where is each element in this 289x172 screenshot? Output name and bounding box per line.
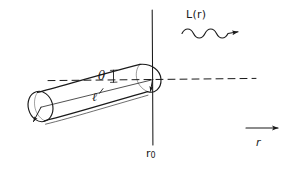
length-label: ℓ <box>92 91 97 103</box>
cylinder-right-end-cap <box>140 64 161 92</box>
r0-label-subscript: 0 <box>151 151 156 160</box>
r0-label: r0 <box>146 148 156 160</box>
angle-label: θ <box>98 70 105 82</box>
cylinder-right-cap-back-edge <box>136 64 147 91</box>
radiation-wave-arrow <box>182 29 238 38</box>
left-cap-radius-arrow <box>34 107 42 121</box>
radius-axis-label: r <box>256 137 261 148</box>
diagram-vector-layer <box>0 0 289 172</box>
cylinder-center-axis <box>41 80 153 108</box>
cylinder-top-edge <box>38 64 141 92</box>
figure-canvas: L(r) r0 r θ ℓ <box>0 0 289 172</box>
luminosity-label: L(r) <box>186 9 206 20</box>
r0-vertical-line <box>152 10 153 145</box>
